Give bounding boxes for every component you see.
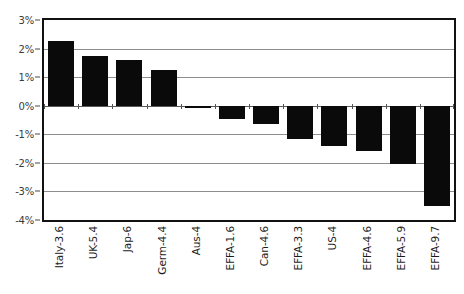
bar[interactable] <box>287 106 313 139</box>
y-axis-tick <box>35 134 40 135</box>
bar[interactable] <box>390 106 416 165</box>
bar[interactable] <box>151 70 177 106</box>
x-axis-category-label: Jap-6 <box>121 226 133 252</box>
bar-slot <box>317 20 351 220</box>
x-axis-tick <box>78 104 79 109</box>
y-axis-tick-label: -2% <box>15 157 34 168</box>
bar[interactable] <box>219 106 245 119</box>
x-axis-label-slot: Can-4.6 <box>247 224 281 294</box>
x-axis-category-label: UK-5.4 <box>87 226 99 259</box>
bars-layer <box>44 20 454 220</box>
chart-title <box>0 0 464 5</box>
x-axis-label-slot: EFFA-4.6 <box>350 224 384 294</box>
x-axis-tick <box>420 104 421 109</box>
x-axis-category-label: Aus-4 <box>190 226 202 255</box>
x-axis-category-label: EFFA-4.6 <box>361 226 373 270</box>
bar-slot <box>249 20 283 220</box>
x-axis-category-label: EFFA-9.7 <box>429 226 441 270</box>
bar-slot <box>420 20 454 220</box>
y-axis: 3%2%1%0%-1%-2%-3%-4% <box>0 18 40 222</box>
x-axis-tick <box>283 104 284 109</box>
x-axis-tick <box>453 104 454 109</box>
bar[interactable] <box>48 41 74 105</box>
x-axis-tick <box>112 104 113 109</box>
bar-slot <box>352 20 386 220</box>
y-axis-tick <box>35 105 40 106</box>
y-axis-tick <box>35 48 40 49</box>
plot-area <box>42 18 456 222</box>
x-axis-tick <box>215 104 216 109</box>
x-axis-label-slot: US-4 <box>315 224 349 294</box>
x-axis-labels: Italy-3.6UK-5.4Jap-6Germ-4.4Aus-4EFFA-1.… <box>42 224 456 294</box>
x-axis-tick <box>249 104 250 109</box>
y-axis-tick <box>35 220 40 221</box>
x-axis-category-label: Can-4.6 <box>258 226 270 266</box>
bar-chart-figure: 3%2%1%0%-1%-2%-3%-4% Italy-3.6UK-5.4Jap-… <box>0 0 464 294</box>
x-axis-label-slot: Italy-3.6 <box>42 224 76 294</box>
y-axis-tick-label: 0% <box>19 100 34 111</box>
y-axis-tick <box>35 162 40 163</box>
bar-slot <box>215 20 249 220</box>
bar[interactable] <box>321 106 347 146</box>
bar-slot <box>112 20 146 220</box>
x-axis-tick <box>147 104 148 109</box>
x-axis-label-slot: Jap-6 <box>110 224 144 294</box>
x-axis-tick <box>352 104 353 109</box>
y-axis-tick-label: -4% <box>15 215 34 226</box>
y-axis-tick <box>35 77 40 78</box>
x-axis-tick <box>181 104 182 109</box>
bar-slot <box>181 20 215 220</box>
y-axis-tick-label: -3% <box>15 186 34 197</box>
x-axis-tick <box>317 104 318 109</box>
x-axis-category-label: US-4 <box>326 226 338 250</box>
x-axis-label-slot: Germ-4.4 <box>145 224 179 294</box>
x-axis-label-slot: Aus-4 <box>179 224 213 294</box>
y-axis-tick <box>35 20 40 21</box>
x-axis-label-slot: EFFA-5.9 <box>384 224 418 294</box>
x-axis-tick <box>44 104 45 109</box>
bar-slot <box>283 20 317 220</box>
x-axis-category-label: EFFA-3.3 <box>292 226 304 270</box>
x-axis-label-slot: UK-5.4 <box>76 224 110 294</box>
y-axis-tick-label: 1% <box>19 72 34 83</box>
y-axis-tick <box>35 191 40 192</box>
bar[interactable] <box>253 106 279 125</box>
x-axis-label-slot: EFFA-3.3 <box>281 224 315 294</box>
x-axis-category-label: EFFA-5.9 <box>395 226 407 270</box>
x-axis-category-label: Italy-3.6 <box>53 226 65 268</box>
bar[interactable] <box>424 106 450 206</box>
bar-slot <box>386 20 420 220</box>
bar-slot <box>147 20 181 220</box>
bar[interactable] <box>116 60 142 106</box>
bar[interactable] <box>356 106 382 152</box>
x-axis-label-slot: EFFA-9.7 <box>418 224 452 294</box>
bar[interactable] <box>185 106 211 108</box>
y-axis-tick-label: 3% <box>19 15 34 26</box>
bar[interactable] <box>82 56 108 106</box>
x-axis-tick <box>386 104 387 109</box>
bar-slot <box>44 20 78 220</box>
bar-slot <box>78 20 112 220</box>
x-axis-category-label: EFFA-1.6 <box>224 226 236 270</box>
x-axis-label-slot: EFFA-1.6 <box>213 224 247 294</box>
y-axis-tick-label: -1% <box>15 129 34 140</box>
y-axis-tick-label: 2% <box>19 43 34 54</box>
x-axis-category-label: Germ-4.4 <box>156 226 168 275</box>
